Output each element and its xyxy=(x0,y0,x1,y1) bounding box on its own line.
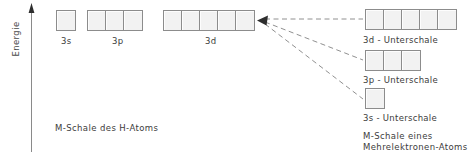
right-shell-caption-line2: Mehrelektronen-Atoms xyxy=(363,141,468,153)
subshell-label-3d: 3d - Unterschale xyxy=(363,35,438,45)
orbital-box xyxy=(402,51,420,70)
dashed-connector-group xyxy=(265,19,363,99)
orbital-box xyxy=(384,51,402,70)
orbital-box xyxy=(200,11,218,30)
orbital-box xyxy=(182,11,200,30)
orbital-label-3d: 3d xyxy=(205,36,216,46)
up-arrow-icon xyxy=(29,3,35,13)
left-shell-caption: M-Schale des H-Atoms xyxy=(55,122,158,134)
orbital-box xyxy=(402,10,420,29)
orbital-box xyxy=(366,10,384,29)
orbital-box xyxy=(88,11,106,30)
connector-to-3s xyxy=(265,24,363,99)
subshell-group-3s xyxy=(365,88,385,109)
subshell-label-3s: 3s - Unterschale xyxy=(363,113,437,123)
orbital-box xyxy=(438,10,456,29)
orbital-box xyxy=(236,11,254,30)
axis-label-energie: Energie xyxy=(11,4,21,74)
orbital-box xyxy=(420,10,438,29)
orbital-box xyxy=(57,11,75,30)
orbital-box xyxy=(218,11,236,30)
orbital-group-3d xyxy=(163,10,255,31)
subshell-group-3p xyxy=(365,50,421,71)
orbital-box xyxy=(366,89,384,108)
energy-level-diagram: Energie 3s 3p 3d M-Schale des H-Atoms 3d… xyxy=(0,0,473,159)
subshell-label-3p: 3p - Unterschale xyxy=(363,75,438,85)
orbital-group-3p xyxy=(87,10,143,31)
orbital-box xyxy=(366,51,384,70)
orbital-label-3s: 3s xyxy=(61,36,71,46)
splitting-arrowhead-icon xyxy=(257,16,268,26)
connector-to-3p xyxy=(265,22,363,60)
orbital-group-3s xyxy=(56,10,76,31)
orbital-label-3p: 3p xyxy=(112,36,123,46)
subshell-group-3d xyxy=(365,9,457,30)
orbital-box xyxy=(384,10,402,29)
orbital-box xyxy=(164,11,182,30)
orbital-box xyxy=(106,11,124,30)
orbital-box xyxy=(124,11,142,30)
